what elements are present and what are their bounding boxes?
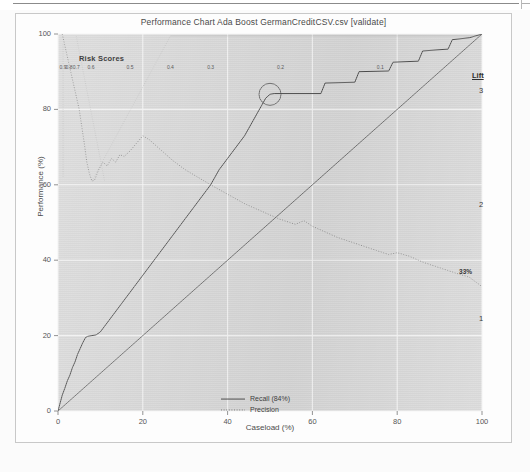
risk-tick-0-2: 0.2 [273,64,289,70]
screenshot-root: Performance Chart Ada Boost GermanCredit… [0,0,530,472]
risk-tick-0-4: 0.4 [162,64,178,70]
risk-tick-0-1: 0.1 [372,64,388,70]
lift-tick-2: 2 [474,200,488,209]
x-tick-0: 0 [45,417,71,426]
title-bar-edge [522,3,530,4]
x-tick-80: 80 [384,417,410,426]
chart-svg [16,14,511,442]
risk-tick-0-7: 0.7 [68,64,84,70]
x-tick-20: 20 [130,417,156,426]
risk-tick-0-5: 0.5 [122,64,138,70]
y-tick-60: 60 [27,180,51,189]
annotation-precision-endpoint-label: 33% [459,268,472,275]
x-tick-100: 100 [469,417,495,426]
y-tick-80: 80 [27,104,51,113]
risk-tick-0-6: 0.6 [83,64,99,70]
x-axis-label: Caseload (%) [58,423,482,432]
x-tick-60: 60 [299,417,325,426]
lift-tick-3: 3 [474,86,488,95]
risk-tick-0-3: 0.3 [203,64,219,70]
lift-tick-1: 1 [474,314,488,323]
title-bar-divider [521,0,522,9]
legend-label-recall: Recall (84%) [250,395,290,402]
y-tick-40: 40 [27,255,51,264]
legend-label-precision: Precision [250,406,279,413]
precision-curve [62,34,482,287]
baseline-diagonal-line [58,34,482,411]
risk-score-guides [63,36,482,181]
x-tick-40: 40 [215,417,241,426]
y-tick-0: 0 [27,406,51,415]
title-bar-rule [13,3,519,4]
y-tick-20: 20 [27,331,51,340]
chart-panel: Performance Chart Ada Boost GermanCredit… [15,13,512,443]
performance-chart: Performance Chart Ada Boost GermanCredit… [16,14,511,442]
risk-scores-title: Risk Scores [79,54,124,63]
window-title-bar [0,0,530,10]
y-tick-100: 100 [27,29,51,38]
lift-axis-title: Lift [472,71,484,80]
